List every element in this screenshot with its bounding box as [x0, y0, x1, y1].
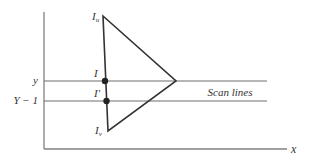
- scan-lines-caption: Scan lines: [208, 86, 253, 98]
- scan-line-y-minus-1-label: Y − 1: [13, 94, 38, 106]
- intersection-point-upper: [102, 78, 108, 84]
- x-axis-label: x: [290, 142, 297, 156]
- intersection-point-lower: [103, 98, 109, 104]
- vertex-top-label: Iu: [91, 10, 100, 24]
- scanline-interpolation-diagram: x y Y − 1 Scan lines Iu Iv I I′: [0, 0, 311, 162]
- intersection-lower-label: I′: [93, 87, 101, 99]
- vertex-bottom-label: Iv: [94, 124, 103, 138]
- triangle: [103, 16, 176, 131]
- scan-line-y-label: y: [32, 74, 38, 86]
- intersection-upper-label: I: [93, 67, 99, 79]
